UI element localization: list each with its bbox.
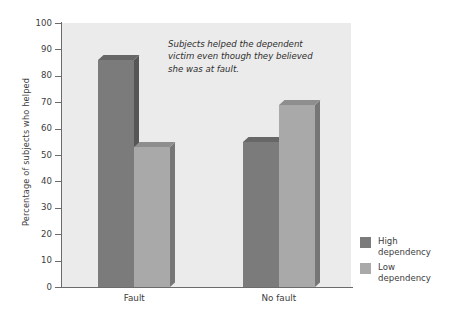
legend-item-low-dependency[interactable]: Low dependency [360, 262, 464, 283]
bar-fault-high-dependency [98, 60, 134, 287]
x-category-label-no-fault: No fault [229, 293, 329, 303]
bar-face [243, 142, 279, 287]
y-tick-label-90: 90 [41, 44, 52, 54]
legend-label-line1: High [378, 236, 431, 247]
y-tick-70: 70 [55, 102, 61, 103]
bar-face [98, 60, 134, 287]
legend-item-high-dependency[interactable]: High dependency [360, 236, 464, 257]
bar-face [134, 147, 170, 287]
legend-label-line1: Low [378, 262, 431, 273]
y-tick-10: 10 [55, 261, 61, 262]
legend-label-line2: dependency [378, 273, 431, 284]
bar-fault-low-dependency [134, 147, 170, 287]
y-tick-80: 80 [55, 76, 61, 77]
y-tick-label-70: 70 [41, 97, 52, 107]
chart-legend: High dependency Low dependency [360, 236, 464, 288]
legend-label-low-dependency: Low dependency [378, 262, 431, 283]
bar-side-face [170, 143, 175, 287]
y-tick-0: 0 [55, 287, 61, 288]
y-tick-100: 100 [55, 23, 61, 24]
x-category-label-fault: Fault [84, 293, 184, 303]
y-tick-label-80: 80 [41, 70, 52, 80]
y-tick-90: 90 [55, 49, 61, 50]
y-tick-label-50: 50 [41, 150, 52, 160]
bar-top-face [98, 55, 140, 60]
y-tick-label-60: 60 [41, 123, 52, 133]
y-tick-label-10: 10 [41, 255, 52, 265]
y-tick-50: 50 [55, 155, 61, 156]
y-tick-30: 30 [55, 208, 61, 209]
chart-annotation: Subjects helped the dependent victim eve… [168, 38, 328, 75]
bar-top-face [134, 142, 176, 147]
y-tick-label-40: 40 [41, 176, 52, 186]
bar-chart-figure: Percentage of subjects who helped 010203… [0, 0, 466, 317]
legend-label-line2: dependency [378, 247, 431, 258]
y-axis-label: Percentage of subjects who helped [21, 52, 31, 252]
bar-top-face [279, 100, 321, 105]
y-tick-label-20: 20 [41, 229, 52, 239]
x-axis-line [61, 287, 353, 288]
legend-swatch-high-dependency [360, 237, 371, 248]
legend-label-high-dependency: High dependency [378, 236, 431, 257]
y-tick-label-100: 100 [36, 18, 52, 28]
y-axis-line [61, 22, 62, 288]
bar-side-face [315, 100, 320, 287]
y-tick-label-0: 0 [47, 282, 52, 292]
y-tick-label-30: 30 [41, 202, 52, 212]
bar-face [279, 105, 315, 287]
y-tick-20: 20 [55, 234, 61, 235]
bar-no-fault-high-dependency [243, 142, 279, 287]
legend-swatch-low-dependency [360, 263, 371, 274]
y-tick-40: 40 [55, 181, 61, 182]
y-tick-60: 60 [55, 129, 61, 130]
bar-no-fault-low-dependency [279, 105, 315, 287]
